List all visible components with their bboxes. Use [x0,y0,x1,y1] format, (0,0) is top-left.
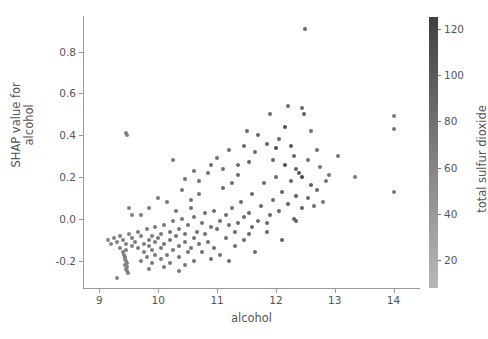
scatter-point [280,238,284,242]
scatter-point [224,236,228,240]
colorbar-tick-mark [438,29,441,30]
scatter-point [203,232,207,236]
scatter-point [309,129,313,133]
x-tick-label: 10 [138,295,178,306]
scatter-point [183,263,187,267]
scatter-point [206,171,210,175]
colorbar-outline [429,17,438,288]
y-tick-mark [79,93,83,94]
x-tick-label: 9 [79,295,119,306]
scatter-point [162,223,166,227]
scatter-point [247,160,251,164]
scatter-point [156,196,160,200]
scatter-point [156,236,160,240]
scatter-point [392,190,396,194]
scatter-point [306,158,310,162]
y-tick-label: 0.0 [0,214,76,225]
scatter-point [180,188,184,192]
colorbar-tick-label: 20 [444,255,457,266]
colorbar-label: total sulfur dioxide [475,69,488,249]
scatter-point [271,158,275,162]
scatter-point [283,163,287,167]
scatter-point [183,232,187,236]
scatter-point [242,215,246,219]
scatter-point [242,144,246,148]
scatter-point [277,209,281,213]
scatter-point [250,192,254,196]
scatter-point [277,137,281,141]
scatter-point [209,225,213,229]
colorbar-tick-label: 40 [444,209,457,220]
scatter-point [130,244,134,248]
scatter-point [153,240,157,244]
scatter-point [268,112,272,116]
scatter-point [159,257,163,261]
scatter-point [221,186,225,190]
scatter-point [292,154,296,158]
scatter-point [186,250,190,254]
scatter-point [192,169,196,173]
scatter-point [159,232,163,236]
scatter-point [392,127,396,131]
colorbar-tick-mark [438,75,441,76]
scatter-point [197,242,201,246]
scatter-point [153,225,157,229]
scatter-point [171,219,175,223]
scatter-point [109,242,113,246]
scatter-point [280,190,284,194]
scatter-point [139,213,143,217]
scatter-point [174,234,178,238]
scatter-point [200,221,204,225]
scatter-point [392,114,396,118]
y-tick-mark [79,135,83,136]
scatter-point [145,227,149,231]
scatter-point [294,194,298,198]
figure-canvas: -0.20.00.20.40.60.8 91011121314 alcohol … [0,0,488,339]
scatter-point [286,202,290,206]
scatter-point [274,175,278,179]
scatter-point [150,261,154,265]
scatter-point [268,213,272,217]
scatter-point [256,133,260,137]
scatter-point [177,255,181,259]
scatter-point [253,250,257,254]
scatter-point [227,223,231,227]
scatter-point [212,209,216,213]
scatter-point [130,213,134,217]
scatter-point [315,148,319,152]
scatter-point [192,215,196,219]
scatter-point [126,271,130,275]
y-tick-mark [79,177,83,178]
y-axis-label: SHAP value for alcohol [10,45,36,205]
scatter-point [227,259,231,263]
scatter-point [168,261,172,265]
scatter-point [353,175,357,179]
scatter-point [147,206,151,210]
x-tick-mark [276,289,277,293]
scatter-point [162,265,166,269]
scatter-point [142,242,146,246]
x-tick-mark [217,289,218,293]
scatter-point [195,230,199,234]
scatter-point [294,219,298,223]
scatter-point [189,206,193,210]
scatter-point [171,158,175,162]
scatter-point [265,230,269,234]
x-tick-label: 12 [256,295,296,306]
scatter-point [318,165,322,169]
scatter-point [300,106,304,110]
y-axis-label-line-1: SHAP value for [10,45,23,205]
scatter-point [153,253,157,257]
scatter-point [145,255,149,259]
y-tick-mark [79,219,83,220]
scatter-point [162,242,166,246]
scatter-point [236,221,240,225]
scatter-point [242,238,246,242]
scatter-plot-area[interactable] [83,16,420,288]
scatter-point [300,206,304,210]
scatter-point [168,238,172,242]
scatter-point [230,206,234,210]
x-tick-mark [99,289,100,293]
scatter-point [218,219,222,223]
scatter-point [324,179,328,183]
